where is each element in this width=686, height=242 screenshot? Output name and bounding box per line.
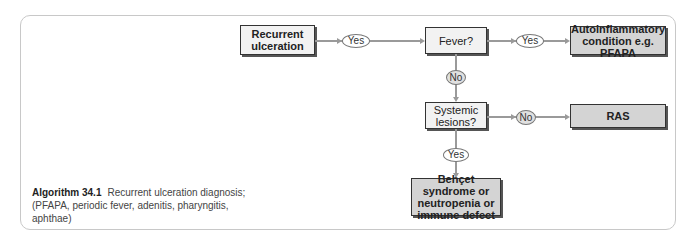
node-behcet: Behçet syndrome or neutropenia or immune… <box>411 178 501 216</box>
caption-label: Algorithm 34.1 <box>32 187 101 198</box>
node-label: Autoinflammatory condition e.g. PFAPA <box>571 23 665 59</box>
figure-caption: Algorithm 34.1Recurrent ulceration diagn… <box>32 186 252 225</box>
edge-label-no: No <box>446 70 466 85</box>
arrow-right-icon <box>565 38 570 44</box>
arrow-right-icon <box>420 38 425 44</box>
arrow-down-icon <box>453 173 459 178</box>
node-recurrent-ulceration: Recurrent ulceration <box>240 25 315 55</box>
edge-label-yes: Yes <box>443 148 469 162</box>
edge-label-yes: Yes <box>342 34 370 48</box>
node-label: RAS <box>606 110 629 122</box>
edge-label-yes: Yes <box>516 34 544 48</box>
node-label: Systemic lesions? <box>426 104 486 128</box>
arrow-down-icon <box>453 97 459 102</box>
node-autoinflammatory: Autoinflammatory condition e.g. PFAPA <box>570 26 666 55</box>
node-label: Fever? <box>439 35 473 47</box>
node-label: Behçet syndrome or neutropenia or immune… <box>412 173 500 221</box>
node-fever-decision: Fever? <box>425 27 487 54</box>
edge-label-no: No <box>516 110 536 125</box>
node-ras: RAS <box>570 104 666 128</box>
arrow-right-icon <box>565 114 570 120</box>
node-systemic-lesions-decision: Systemic lesions? <box>425 102 487 129</box>
node-label: Recurrent ulceration <box>241 28 314 52</box>
